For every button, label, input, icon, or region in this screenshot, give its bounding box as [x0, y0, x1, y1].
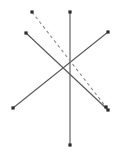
diagram-background: [0, 0, 116, 154]
marker-vertical-bottom: [68, 143, 71, 146]
marker-se: [106, 108, 109, 111]
marker-sw: [11, 106, 14, 109]
marker-nw: [24, 31, 27, 34]
diagram-svg: [0, 0, 116, 154]
marker-dashed-bottom: [104, 105, 107, 108]
marker-ne: [106, 30, 109, 33]
diagram-canvas: [0, 0, 116, 154]
marker-dashed-top: [30, 10, 33, 13]
marker-vertical-top: [68, 10, 71, 13]
